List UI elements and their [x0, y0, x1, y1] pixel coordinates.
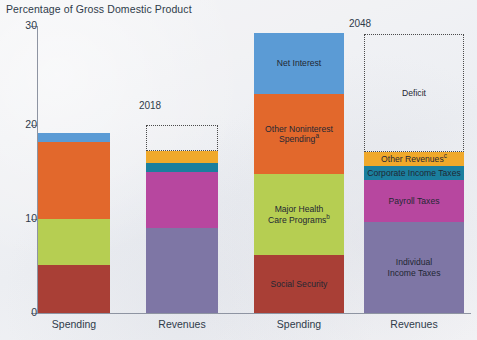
segment-other-revenues: Other Revenuesc	[364, 152, 464, 166]
segment-corporate-income-taxes	[146, 163, 218, 172]
segment-individual-income-taxes	[146, 228, 218, 313]
y-tick-label: 0	[11, 306, 37, 318]
y-tick-label: 30	[11, 19, 37, 31]
deficit-label: Deficit	[400, 88, 428, 98]
segment-label-text: Major Health Care Programs	[268, 204, 326, 224]
segment-other-revenues	[146, 151, 218, 163]
segment-label-text: Other Noninterest Spending	[265, 124, 333, 144]
segment-social-security	[38, 265, 110, 313]
bar-2018-spending	[38, 133, 110, 313]
segment-net-interest: Net Interest	[254, 33, 344, 94]
segment-label-corporate-income-taxes: Corporate Income Taxes	[365, 168, 462, 178]
x-label-2048-spending: Spending	[254, 318, 344, 330]
segment-label-payroll-taxes: Payroll Taxes	[387, 196, 442, 206]
group-year-2018: 2018	[120, 100, 180, 111]
segment-major-health-care-programs	[38, 219, 110, 265]
footnote-marker-b: b	[326, 213, 330, 220]
bar-2018-revenues	[146, 125, 218, 313]
segment-net-interest	[38, 133, 110, 142]
segment-label-text: Other Revenues	[381, 154, 444, 164]
segment-label-net-interest: Net Interest	[275, 58, 323, 68]
x-label-2048-revenues: Revenues	[364, 318, 464, 330]
segment-individual-income-taxes: Individual Income Taxes	[364, 222, 464, 313]
segment-label-major-health-care-programs: Major Health Care Programsb	[266, 204, 332, 224]
segment-label-other-noninterest-spending: Other Noninterest Spendinga	[263, 124, 335, 144]
chart-container: Percentage of Gross Domestic Product 0 1…	[0, 0, 477, 340]
x-axis-line	[37, 313, 471, 314]
y-tick-label: 10	[11, 212, 37, 224]
segment-payroll-taxes	[146, 172, 218, 228]
segment-payroll-taxes: Payroll Taxes	[364, 180, 464, 222]
segment-label-other-revenues: Other Revenuesc	[379, 154, 449, 164]
segment-major-health-care-programs: Major Health Care Programsb	[254, 174, 344, 255]
group-year-2048: 2048	[330, 18, 390, 29]
bar-2048-spending: Net Interest Other Noninterest Spendinga…	[254, 33, 344, 313]
segment-social-security: Social Security	[254, 255, 344, 313]
segment-other-noninterest-spending	[38, 142, 110, 219]
deficit-box-2018	[146, 125, 218, 151]
segment-corporate-income-taxes: Corporate Income Taxes	[364, 166, 464, 180]
segment-other-noninterest-spending: Other Noninterest Spendinga	[254, 94, 344, 174]
x-label-2018-spending: Spending	[38, 318, 110, 330]
bar-2048-revenues: Deficit Other Revenuesc Corporate Income…	[364, 34, 464, 313]
y-tick-label: 20	[11, 118, 37, 130]
footnote-marker-a: a	[315, 132, 319, 139]
segment-label-individual-income-taxes: Individual Income Taxes	[386, 257, 443, 277]
chart-title: Percentage of Gross Domestic Product	[6, 3, 192, 15]
deficit-box-2048: Deficit	[364, 34, 464, 152]
x-label-2018-revenues: Revenues	[146, 318, 218, 330]
segment-label-social-security: Social Security	[269, 279, 330, 289]
plot-area: 0 10 20 30 2018	[0, 0, 477, 340]
footnote-marker-c: c	[444, 152, 447, 159]
